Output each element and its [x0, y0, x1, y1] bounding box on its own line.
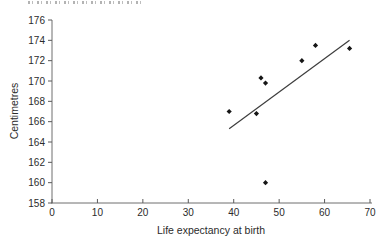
- y-tick-label: 174: [28, 35, 45, 46]
- x-tick-label: 60: [319, 207, 331, 218]
- x-tick-label: 70: [364, 207, 376, 218]
- y-tick-label: 170: [28, 76, 45, 87]
- data-point: [263, 80, 268, 85]
- y-tick-label: 162: [28, 157, 45, 168]
- y-tick-label: 172: [28, 55, 45, 66]
- x-tick-label: 0: [49, 207, 55, 218]
- data-point: [313, 43, 318, 48]
- data-point: [299, 58, 304, 63]
- x-tick-label: 20: [137, 207, 149, 218]
- data-point: [227, 109, 232, 114]
- data-point: [347, 46, 352, 51]
- x-tick-label: 40: [228, 207, 240, 218]
- y-tick-label: 168: [28, 96, 45, 107]
- y-tick-label: 160: [28, 177, 45, 188]
- y-tick-label: 176: [28, 15, 45, 26]
- x-tick-label: 50: [274, 207, 286, 218]
- y-tick-label: 164: [28, 137, 45, 148]
- data-point: [263, 180, 268, 185]
- x-tick-label: 30: [183, 207, 195, 218]
- data-point: [258, 75, 263, 80]
- scatter-plot-figure: Centimetres 1581601621641661681701721741…: [0, 0, 388, 249]
- data-point: [254, 111, 259, 116]
- y-tick-label: 158: [28, 198, 45, 209]
- x-tick-label: 10: [92, 207, 104, 218]
- x-axis-label: Life expectancy at birth: [52, 224, 370, 236]
- scatter-plot: 1581601621641661681701721741760102030405…: [0, 0, 388, 249]
- trend-line: [229, 40, 349, 128]
- y-tick-label: 166: [28, 116, 45, 127]
